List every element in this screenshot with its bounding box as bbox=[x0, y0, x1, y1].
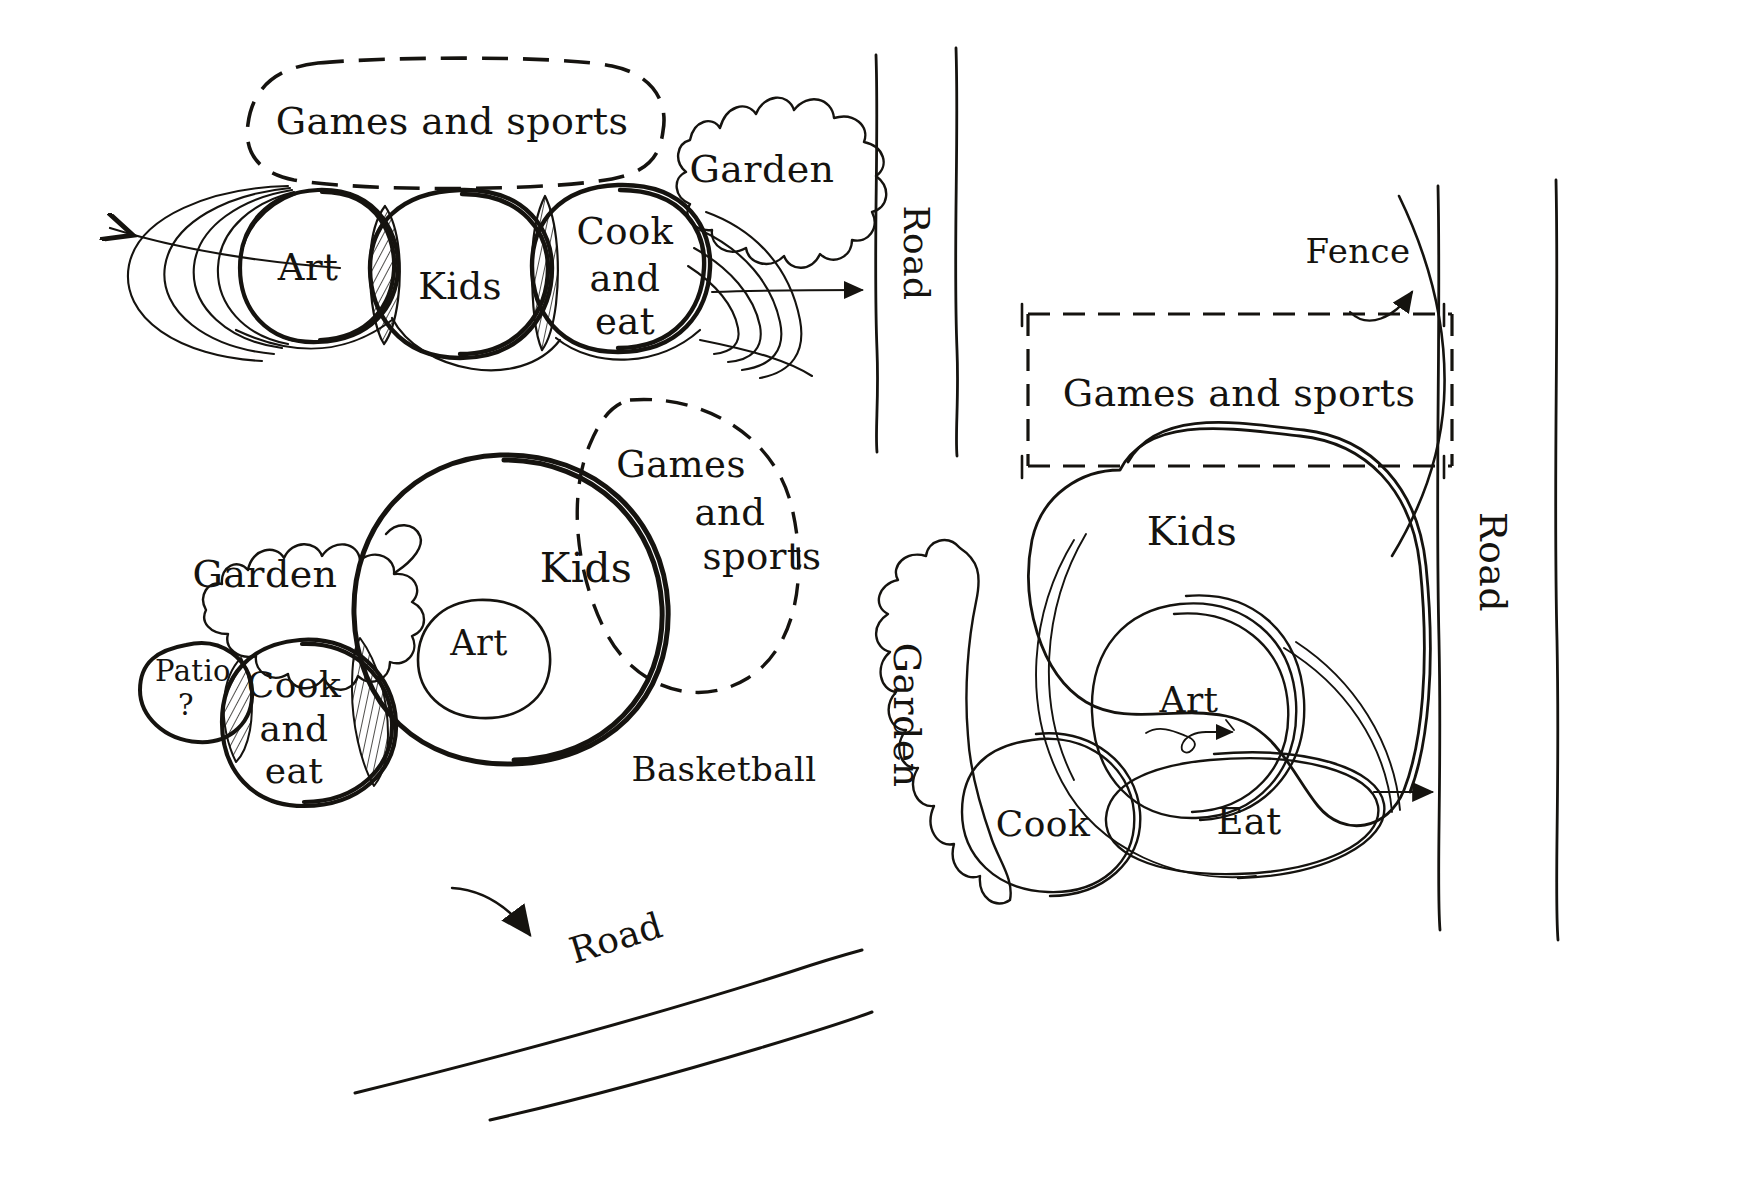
sketch-sheet: Games and sports Art Kids Cook and eat G… bbox=[0, 0, 1756, 1177]
label-cook-b-line1: Cook bbox=[247, 664, 341, 705]
label-fence: Fence bbox=[1306, 232, 1411, 271]
label-art-b: Art bbox=[450, 623, 507, 663]
label-art-c: Art bbox=[1160, 679, 1219, 720]
label-patio-question: ? bbox=[178, 689, 194, 722]
label-cook-c: Cook bbox=[996, 803, 1090, 844]
label-cook-b-line2: and bbox=[260, 708, 329, 749]
label-road-a: Road bbox=[895, 206, 936, 301]
label-games-and-sports-a: Games and sports bbox=[276, 100, 629, 144]
label-games-b-line1: Games bbox=[616, 444, 746, 487]
zone-kids-b-outline bbox=[354, 455, 668, 764]
label-kids-b: Kids bbox=[540, 545, 633, 592]
zone-kids-c-outline bbox=[1029, 422, 1431, 825]
label-cook-b-line3: eat bbox=[265, 750, 323, 791]
arrow-c-art-squiggle bbox=[1146, 720, 1234, 752]
arrow-a-right bbox=[712, 290, 862, 292]
label-patio: Patio bbox=[155, 655, 231, 688]
edge-road-b bbox=[355, 950, 872, 1120]
label-road-c: Road bbox=[1470, 512, 1514, 612]
label-art-a: Art bbox=[278, 247, 338, 290]
label-games-and-sports-c: Games and sports bbox=[1063, 372, 1416, 416]
zone-art-growth-rings bbox=[128, 186, 296, 361]
label-cook-a-line1: Cook bbox=[577, 211, 674, 254]
overlap-cook-kids-hatch bbox=[352, 638, 388, 786]
label-games-b-line3: sports bbox=[703, 536, 822, 579]
label-garden-a: Garden bbox=[690, 148, 835, 192]
label-cook-a-line3: eat bbox=[595, 301, 655, 344]
label-eat-c: Eat bbox=[1216, 801, 1281, 844]
arrow-b-down bbox=[452, 888, 530, 935]
fence-leader-arrow bbox=[1350, 292, 1412, 321]
label-kids-c: Kids bbox=[1147, 508, 1237, 554]
label-kids-a: Kids bbox=[418, 266, 502, 309]
label-games-b-line2: and bbox=[695, 492, 766, 535]
label-cook-a-line2: and bbox=[590, 258, 661, 301]
label-basketball: Basketball bbox=[632, 750, 817, 789]
label-garden-c: Garden bbox=[884, 643, 928, 788]
label-garden-b: Garden bbox=[193, 553, 338, 597]
